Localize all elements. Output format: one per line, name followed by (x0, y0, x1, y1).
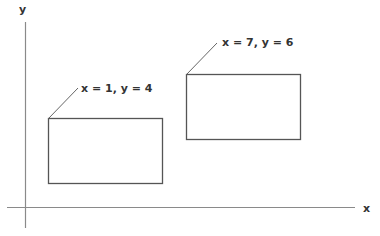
x-axis-label: x (363, 202, 370, 215)
rectangle-1-leader-line (49, 88, 79, 119)
rectangle-1 (49, 119, 163, 184)
rectangle-2 (187, 75, 301, 140)
y-axis-label: y (19, 3, 26, 16)
rectangle-2-label: x = 7, y = 6 (222, 36, 294, 49)
rectangle-2-leader-line (187, 43, 218, 75)
coordinate-diagram: y x x = 1, y = 4 x = 7, y = 6 (0, 0, 380, 236)
rectangle-1-label: x = 1, y = 4 (81, 82, 153, 95)
